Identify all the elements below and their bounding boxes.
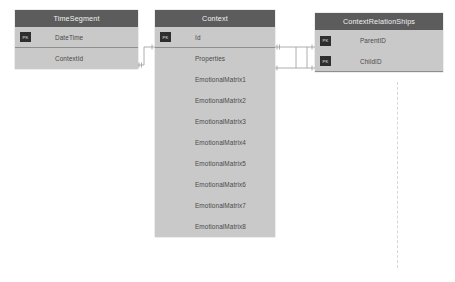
attribute-row[interactable]: ContextId bbox=[15, 48, 138, 69]
alignment-guide-line bbox=[397, 82, 398, 268]
attribute-row[interactable]: EmotionalMatrix6 bbox=[155, 174, 275, 195]
primary-key-icon: PK bbox=[320, 36, 331, 46]
attribute-label: EmotionalMatrix5 bbox=[195, 160, 246, 167]
attribute-label: EmotionalMatrix3 bbox=[195, 118, 246, 125]
attribute-label: ContextId bbox=[55, 55, 83, 62]
attribute-label: EmotionalMatrix2 bbox=[195, 97, 246, 104]
attribute-label: EmotionalMatrix8 bbox=[195, 223, 246, 230]
primary-key-icon: PK bbox=[20, 32, 31, 42]
entity-timesegment-title: TimeSegment bbox=[15, 10, 138, 27]
attribute-row[interactable]: PK ParentID bbox=[315, 30, 443, 51]
entity-contextrelationships-title: ContextRelationShips bbox=[315, 13, 443, 30]
entity-context-attributes: PK Id Properties EmotionalMatrix1 Emotio… bbox=[155, 27, 275, 237]
attribute-row[interactable]: EmotionalMatrix3 bbox=[155, 111, 275, 132]
attribute-label: Properties bbox=[195, 55, 225, 62]
attribute-row[interactable]: EmotionalMatrix7 bbox=[155, 195, 275, 216]
primary-key-icon: PK bbox=[320, 56, 331, 66]
entity-context-title: Context bbox=[155, 10, 275, 27]
attribute-label: ParentID bbox=[360, 37, 386, 44]
attribute-label: DateTime bbox=[55, 34, 83, 41]
attribute-row[interactable]: PK ChildID bbox=[315, 51, 443, 72]
attribute-label: EmotionalMatrix6 bbox=[195, 181, 246, 188]
entity-timesegment-attributes: PK DateTime ContextId bbox=[15, 27, 138, 69]
primary-key-icon: PK bbox=[160, 32, 171, 42]
attribute-row[interactable]: PK Id bbox=[155, 27, 275, 48]
attribute-row[interactable]: Properties bbox=[155, 48, 275, 69]
attribute-row[interactable]: EmotionalMatrix4 bbox=[155, 132, 275, 153]
attribute-row[interactable]: EmotionalMatrix2 bbox=[155, 90, 275, 111]
attribute-label: EmotionalMatrix7 bbox=[195, 202, 246, 209]
attribute-row[interactable]: EmotionalMatrix1 bbox=[155, 69, 275, 90]
attribute-label: Id bbox=[195, 34, 201, 41]
attribute-label: EmotionalMatrix4 bbox=[195, 139, 246, 146]
attribute-row[interactable]: EmotionalMatrix8 bbox=[155, 216, 275, 237]
connector-timesegment-context bbox=[138, 47, 155, 65]
diagram-canvas: TimeSegment PK DateTime ContextId Contex… bbox=[0, 0, 455, 282]
attribute-label: EmotionalMatrix1 bbox=[195, 76, 246, 83]
entity-contextrelationships-attributes: PK ParentID PK ChildID bbox=[315, 30, 443, 72]
attribute-row[interactable]: EmotionalMatrix5 bbox=[155, 153, 275, 174]
entity-contextrelationships[interactable]: ContextRelationShips PK ParentID PK Chil… bbox=[315, 13, 443, 72]
entity-context[interactable]: Context PK Id Properties EmotionalMatrix… bbox=[155, 10, 275, 237]
attribute-label: ChildID bbox=[360, 58, 382, 65]
entity-timesegment[interactable]: TimeSegment PK DateTime ContextId bbox=[15, 10, 138, 69]
attribute-row[interactable]: PK DateTime bbox=[15, 27, 138, 48]
